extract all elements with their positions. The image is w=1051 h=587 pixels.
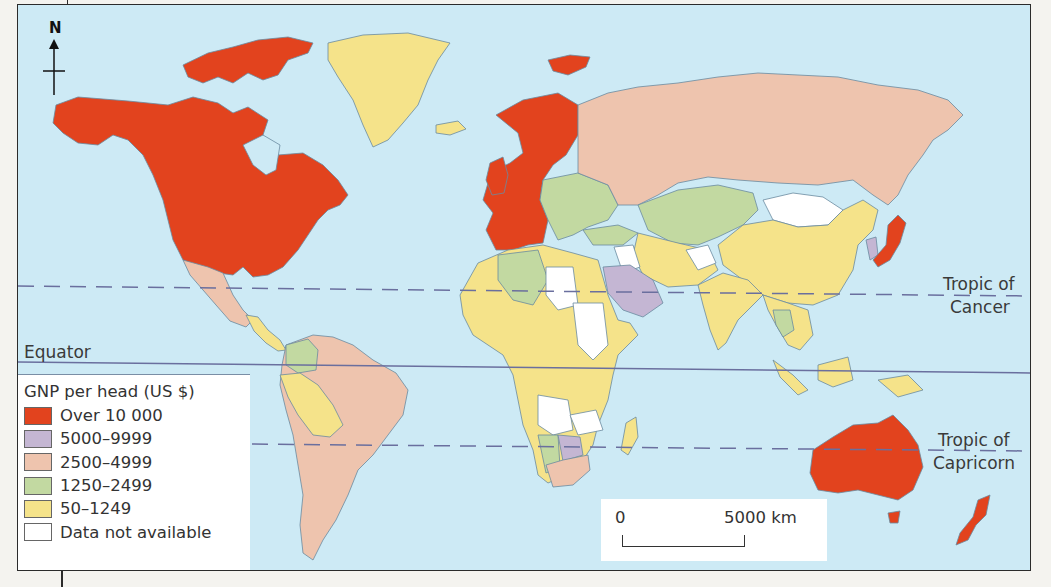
region-madagascar bbox=[621, 417, 638, 455]
legend: GNP per head (US $) Over 10 000 5000–999… bbox=[18, 374, 250, 571]
region-australia bbox=[810, 415, 923, 500]
legend-swatch-50-1249 bbox=[24, 500, 52, 518]
legend-label: Over 10 000 bbox=[60, 406, 163, 425]
legend-item: Over 10 000 bbox=[24, 404, 250, 427]
legend-label: 50–1249 bbox=[60, 499, 131, 518]
scale-bar: 0 5000 km bbox=[601, 499, 827, 561]
scale-start-label: 0 bbox=[615, 508, 626, 527]
region-central-america bbox=[246, 315, 286, 351]
legend-label: Data not available bbox=[60, 523, 211, 542]
equator-label: Equator bbox=[24, 342, 91, 362]
north-arrow: N bbox=[42, 19, 72, 99]
legend-item: Data not available bbox=[24, 520, 250, 543]
region-svalbard bbox=[548, 55, 590, 75]
legend-swatch-no-data bbox=[24, 523, 52, 541]
scale-bar-line bbox=[622, 535, 745, 547]
tropic-cancer-label-line1: Tropic of bbox=[943, 274, 1015, 294]
tropic-capricorn-label-line1: Tropic of bbox=[938, 430, 1010, 450]
legend-swatch-over-10000 bbox=[24, 407, 52, 425]
region-north-america bbox=[53, 97, 348, 277]
region-turkey bbox=[583, 225, 638, 245]
legend-label: 2500–4999 bbox=[60, 453, 152, 472]
legend-swatch-1250-2499 bbox=[24, 477, 52, 495]
world-map: N Equator Tropic of Cancer Tropic of Cap… bbox=[17, 4, 1031, 571]
region-uk bbox=[486, 157, 508, 195]
region-indonesia bbox=[773, 357, 923, 397]
legend-item: 2500–4999 bbox=[24, 451, 250, 474]
north-arrow-icon bbox=[42, 19, 72, 99]
region-russia bbox=[578, 73, 963, 205]
legend-swatch-5000-9999 bbox=[24, 430, 52, 448]
frame-tick-bottom bbox=[61, 571, 63, 587]
legend-swatch-2500-4999 bbox=[24, 453, 52, 471]
legend-label: 1250–2499 bbox=[60, 476, 152, 495]
scale-end-label: 5000 km bbox=[724, 508, 797, 527]
legend-label: 5000–9999 bbox=[60, 429, 152, 448]
tropic-capricorn-label-line2: Capricorn bbox=[933, 453, 1015, 473]
region-new-zealand bbox=[956, 495, 990, 545]
region-arctic-islands bbox=[183, 37, 313, 83]
legend-item: 1250–2499 bbox=[24, 474, 250, 497]
tropic-cancer-label-line2: Cancer bbox=[950, 297, 1010, 317]
region-japan bbox=[873, 215, 906, 267]
region-iceland bbox=[436, 121, 466, 135]
region-greenland bbox=[328, 33, 450, 147]
legend-title: GNP per head (US $) bbox=[24, 381, 250, 403]
legend-item: 50–1249 bbox=[24, 497, 250, 520]
region-tasmania bbox=[888, 511, 900, 523]
legend-item: 5000–9999 bbox=[24, 427, 250, 450]
